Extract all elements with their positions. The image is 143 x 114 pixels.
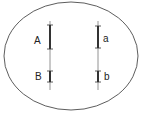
gene-label-a: a — [103, 34, 109, 44]
gene-label-A: A — [34, 36, 41, 46]
chromosome-left — [47, 21, 53, 90]
chromosome-right — [95, 21, 101, 90]
cell-diagram — [0, 0, 143, 114]
gene-label-b: b — [104, 72, 110, 82]
cell-outline — [4, 2, 138, 110]
gene-label-B: B — [35, 72, 42, 82]
